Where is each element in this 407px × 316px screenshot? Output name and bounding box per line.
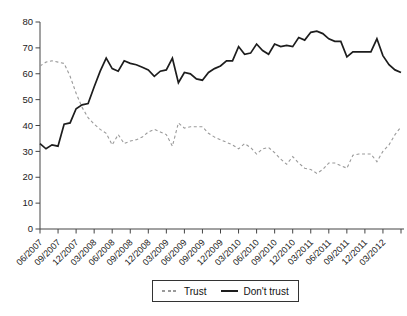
dont-trust-solid-line-sample — [221, 290, 238, 292]
line-chart: 0102030405060708006/200709/200712/200703… — [0, 0, 407, 316]
y-tick-label: 40 — [22, 120, 33, 131]
legend-label-trust: Trust — [184, 286, 206, 297]
trust-dashed-line-sample — [162, 290, 179, 291]
y-tick-label: 0 — [28, 223, 33, 234]
y-tick-label: 10 — [22, 197, 33, 208]
line-chart-figure: 0102030405060708006/200709/200712/200703… — [0, 0, 407, 316]
y-tick-label: 50 — [22, 94, 33, 105]
y-tick-label: 30 — [22, 146, 33, 157]
dont-trust-line — [40, 31, 401, 149]
y-tick-label: 20 — [22, 171, 33, 182]
y-tick-label: 80 — [22, 16, 33, 27]
chart-legend: Trust Don't trust — [152, 280, 299, 302]
trust-line — [40, 61, 401, 174]
y-tick-label: 70 — [22, 42, 33, 53]
legend-item-dont-trust: Don't trust — [221, 286, 288, 297]
legend-item-trust: Trust — [162, 286, 206, 297]
y-tick-label: 60 — [22, 68, 33, 79]
legend-label-dont-trust: Don't trust — [243, 286, 288, 297]
